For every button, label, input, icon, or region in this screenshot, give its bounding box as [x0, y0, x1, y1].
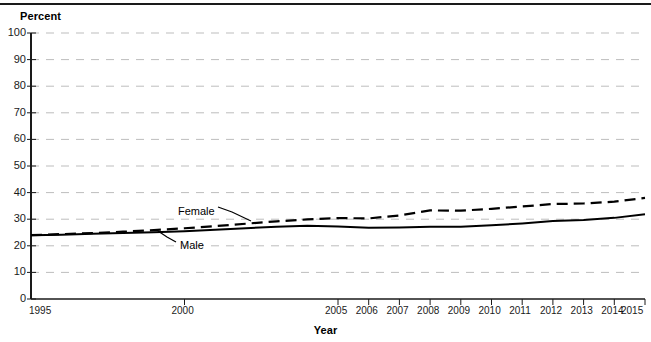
x-tick-label-2011: 2011 — [509, 306, 531, 316]
x-tick-label-2015: 2015 — [621, 306, 643, 316]
x-tick-label-2005: 2005 — [325, 306, 347, 316]
x-tick-label-2013: 2013 — [571, 306, 593, 316]
y-tick-label-40: 40 — [0, 187, 26, 198]
y-tick-label-90: 90 — [0, 54, 26, 65]
x-tick-label-2000: 2000 — [172, 306, 194, 316]
x-tick-label-2009: 2009 — [448, 306, 470, 316]
x-tick-label-1995: 1995 — [29, 306, 51, 316]
female-leader-line — [218, 207, 251, 221]
x-axis-title: Year — [0, 324, 651, 336]
data-series-group — [31, 198, 645, 235]
y-tick-label-30: 30 — [0, 213, 26, 224]
x-tick-label-2007: 2007 — [386, 306, 408, 316]
gridlines-group — [31, 33, 645, 299]
y-tick-label-0: 0 — [0, 293, 26, 304]
x-tick-label-2012: 2012 — [540, 306, 562, 316]
x-tick-label-2010: 2010 — [479, 306, 501, 316]
x-tick-label-2006: 2006 — [356, 306, 378, 316]
y-tick-label-10: 10 — [0, 266, 26, 277]
y-tick-label-50: 50 — [0, 160, 26, 171]
series-label-female: Female — [178, 206, 215, 217]
y-tick-label-100: 100 — [0, 27, 26, 38]
chart-figure: Percent 0102030405060708090100 199520002… — [0, 0, 651, 342]
plot-area — [0, 0, 651, 342]
y-tick-label-70: 70 — [0, 107, 26, 118]
series-line-female — [31, 198, 645, 235]
y-tick-label-20: 20 — [0, 240, 26, 251]
y-tick-label-80: 80 — [0, 80, 26, 91]
series-label-male: Male — [180, 240, 204, 251]
y-tick-label-60: 60 — [0, 133, 26, 144]
x-tick-label-2008: 2008 — [417, 306, 439, 316]
